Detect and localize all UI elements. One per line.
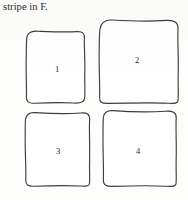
panel-4-label: 4 [136,146,140,156]
panel-1-label: 1 [55,64,59,74]
panel-3-label: 3 [56,146,60,156]
figure-root: stripe in F. 1 2 3 [0,0,188,200]
panel-2-label: 2 [135,55,139,65]
panel-grid: 1 2 3 4 [0,0,188,200]
